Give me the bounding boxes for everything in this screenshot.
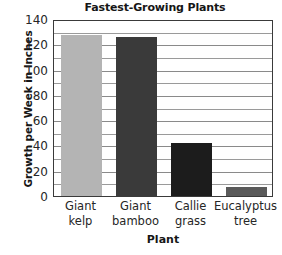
y-tick-label: 60 [2, 115, 48, 127]
y-tick-label: 0 [2, 191, 48, 203]
y-tick-label: 80 [2, 90, 48, 102]
chart-title: Fastest-Growing Plants [40, 1, 270, 14]
bar [171, 143, 212, 196]
y-tick-label: 100 [2, 65, 48, 77]
bars-group [54, 21, 272, 196]
y-tick-label: 20 [2, 166, 48, 178]
x-axis-title: Plant [53, 233, 273, 246]
plot-area [53, 20, 273, 197]
bar-chart-figure: Fastest-Growing Plants Growth per Week i… [0, 0, 282, 255]
y-tick-label: 140 [2, 14, 48, 26]
x-axis-tick-labels: GiantkelpGiantbambooCalliegrassEucalyptu… [53, 199, 273, 233]
bar [226, 187, 267, 196]
y-tick-label: 120 [2, 39, 48, 51]
bar [116, 37, 157, 196]
y-tick-label: 40 [2, 140, 48, 152]
y-axis-tick-labels: 020406080100120140 [0, 0, 52, 255]
x-tick-label: Eucalyptustree [212, 199, 279, 228]
bar [61, 35, 102, 196]
